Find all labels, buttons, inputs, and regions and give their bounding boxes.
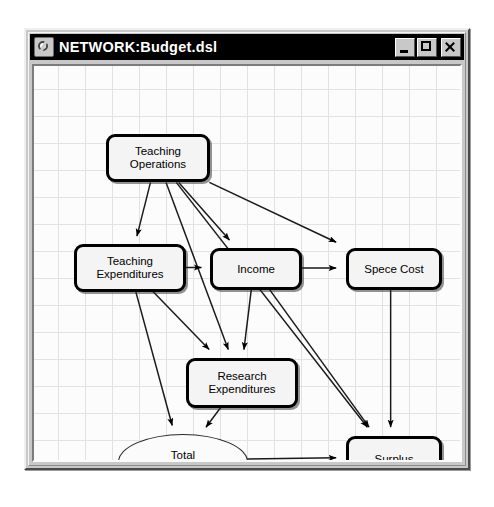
edge-teaching_operations-to-teaching_expenditures[interactable] [137, 182, 151, 236]
node-total_expenditure[interactable]: TotalExpenditure [118, 434, 248, 462]
node-label: TeachingExpenditures [93, 255, 166, 281]
network-app-icon [34, 37, 54, 57]
edge-teaching_operations-to-spece_cost[interactable] [209, 182, 336, 242]
edge-income-to-research_expenditures[interactable] [244, 290, 251, 350]
node-research_expenditures[interactable]: ResearchExpenditures [186, 358, 298, 408]
maximize-icon [421, 41, 431, 51]
network-window: NETWORK:Budget.dsl T [24, 28, 470, 470]
window-controls [395, 38, 461, 57]
node-label: ResearchExpenditures [205, 370, 278, 396]
node-label: TotalExpenditure [149, 449, 216, 462]
node-surplus[interactable]: Surplus [346, 436, 442, 462]
diagram-canvas-well: TeachingOperationsTeachingExpendituresIn… [32, 64, 462, 462]
maximize-button[interactable] [417, 38, 437, 57]
node-spece_cost[interactable]: Spece Cost [346, 248, 442, 290]
node-teaching_expenditures[interactable]: TeachingExpenditures [74, 244, 186, 292]
edge-teaching_expenditures-to-research_expenditures[interactable] [153, 292, 209, 350]
node-teaching_operations[interactable]: TeachingOperations [106, 134, 210, 182]
close-button[interactable] [441, 38, 461, 57]
minimize-icon [400, 50, 408, 53]
window-titlebar[interactable]: NETWORK:Budget.dsl [30, 34, 464, 60]
edge-teaching_operations-to-income[interactable] [179, 182, 230, 240]
node-label: Spece Cost [361, 263, 426, 276]
node-label: Surplus [372, 453, 417, 463]
edge-research_expenditures-to-total_expenditure[interactable] [206, 407, 221, 427]
node-label: TeachingOperations [127, 145, 189, 171]
edge-total_expenditure-to-surplus[interactable] [247, 458, 336, 459]
node-income[interactable]: Income [210, 248, 302, 290]
window-title: NETWORK:Budget.dsl [59, 39, 395, 55]
diagram-canvas[interactable]: TeachingOperationsTeachingExpendituresIn… [34, 66, 460, 460]
minimize-button[interactable] [395, 38, 415, 57]
edge-teaching_expenditures-to-total_expenditure[interactable] [136, 292, 172, 426]
node-label: Income [234, 263, 278, 276]
